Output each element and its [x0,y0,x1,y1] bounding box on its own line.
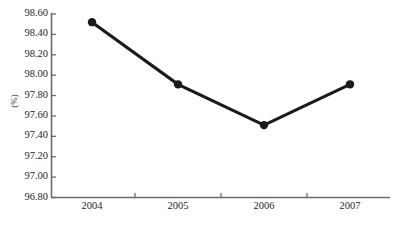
line-chart: (%) 98.6098.4098.2098.0097.8097.6097.409… [0,0,399,226]
data-series-line [92,22,350,125]
plot-area [0,0,399,226]
data-point-marker [174,80,182,88]
data-point-marker [88,18,96,26]
data-point-marker [346,80,354,88]
data-point-marker [260,121,268,129]
data-point-markers [88,18,354,129]
